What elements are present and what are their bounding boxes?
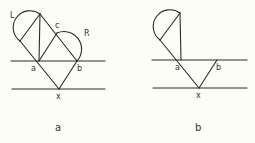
label-x: x <box>56 92 61 101</box>
line-a-to-c <box>39 33 57 61</box>
label-b: b <box>77 64 82 73</box>
label-R: R <box>84 29 90 38</box>
right-semicircle-arc-R <box>57 32 82 61</box>
vertical-line <box>39 14 40 61</box>
semicircle-chord <box>160 13 180 40</box>
label-c: c <box>55 21 59 30</box>
vertical-line <box>180 13 181 60</box>
semicircle-arc <box>153 10 180 40</box>
label-a: a <box>31 64 36 73</box>
line-x-to-b <box>199 60 217 88</box>
label-x: x <box>196 91 201 100</box>
label-b: b <box>216 63 221 72</box>
caption-b: b <box>195 122 201 133</box>
label-L: L <box>10 11 15 20</box>
label-a: a <box>175 63 180 72</box>
left-semicircle-chord <box>20 14 40 41</box>
line-x-to-b <box>59 61 77 89</box>
left-semicircle-arc-L <box>13 11 40 41</box>
panel-b: a b x b <box>152 10 247 133</box>
caption-a: a <box>55 122 61 133</box>
panel-a: L c R a b x a <box>10 11 105 133</box>
diagram-canvas: L c R a b x a a b x b <box>0 0 255 143</box>
